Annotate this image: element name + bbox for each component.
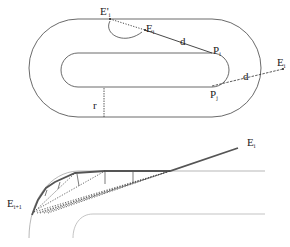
- angle-arc: [109, 21, 142, 38]
- distance-segment-upper: [145, 30, 212, 53]
- dotted-segment: [110, 19, 145, 30]
- diagram-canvas: E'i Ei d Pi Ei d Pj r: [0, 0, 290, 247]
- dotted-rays: [34, 171, 170, 213]
- label-d-lower: d: [243, 70, 249, 82]
- inner-obstacle-partial: [73, 214, 265, 238]
- tick-marks: [45, 172, 133, 196]
- outer-boundary: [29, 19, 261, 117]
- top-figure: E'i Ei d Pi Ei d Pj r: [29, 5, 286, 117]
- label-e-i: Ei: [247, 136, 256, 149]
- label-e-i-upper: Ei: [146, 22, 155, 35]
- inner-obstacle: [61, 53, 229, 87]
- outer-boundary-partial: [29, 171, 265, 238]
- label-p-j: Pj: [210, 88, 218, 101]
- label-e-i-right: Ei: [277, 56, 286, 69]
- label-d-upper: d: [180, 35, 186, 47]
- label-e-i-plus-1: Ei+1: [7, 197, 22, 210]
- bottom-figure: Ei Ei+1: [7, 136, 265, 238]
- point-e-prime: [109, 18, 111, 20]
- label-e-prime: E'i: [100, 5, 111, 18]
- label-r: r: [93, 99, 97, 111]
- label-p-i: Pi: [213, 44, 221, 57]
